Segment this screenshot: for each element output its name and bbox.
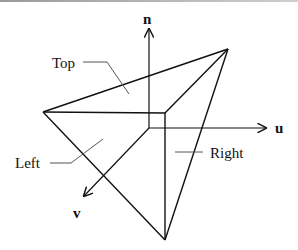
- top-face-label: Top: [52, 55, 75, 71]
- n-axis-label: n: [143, 11, 152, 27]
- right-face-label: Right: [210, 145, 244, 161]
- u-axis-label: u: [275, 120, 283, 136]
- pyramid-edges: [43, 49, 228, 240]
- v-axis: [84, 128, 149, 196]
- v-axis-label: v: [73, 205, 81, 221]
- left-face-label: Left: [15, 155, 41, 171]
- pyramid-diagram: n u v Top Left Right: [0, 0, 298, 250]
